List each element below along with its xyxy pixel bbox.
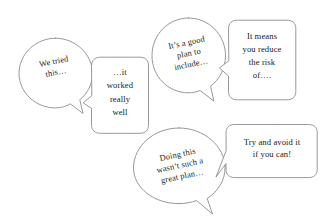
- speech-bubble-diagram: We tried this… …it worked really well It…: [0, 0, 333, 224]
- bubble-text-try-and-avoid-it: Try and avoid it if you can!: [230, 136, 314, 161]
- bubble-text-it-means-you-reduce: It means you reduce the risk of….: [231, 30, 293, 82]
- bubble-text-it-worked-really-well: …it worked really well: [94, 66, 146, 119]
